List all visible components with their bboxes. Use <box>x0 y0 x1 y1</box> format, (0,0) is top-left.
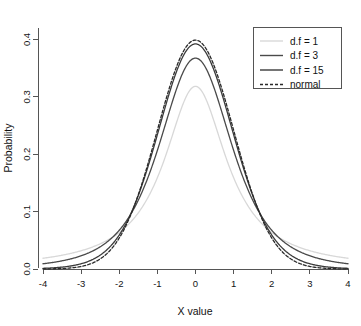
x-tick-label: 3 <box>307 278 312 289</box>
x-tick-label: -3 <box>77 278 85 289</box>
y-axis-ticks: 0.00.10.20.30.4 <box>21 33 38 276</box>
y-axis-title: Probability <box>2 123 14 173</box>
y-tick-label: 0.1 <box>21 205 32 218</box>
x-tick-label: 1 <box>231 278 236 289</box>
legend: d.f = 1d.f = 3d.f = 15normal <box>254 28 342 91</box>
x-tick-label: -1 <box>153 278 161 289</box>
x-tick-label: -2 <box>115 278 123 289</box>
y-tick-label: 0.4 <box>21 33 32 46</box>
curve-series-0 <box>43 86 348 258</box>
t-distribution-plot: -4-3-2-101234 0.00.10.20.30.4 X value Pr… <box>0 0 361 326</box>
chart-container: -4-3-2-101234 0.00.10.20.30.4 X value Pr… <box>0 0 361 326</box>
legend-label-0: d.f = 1 <box>290 36 319 47</box>
y-tick-label: 0.3 <box>21 90 32 103</box>
x-tick-label: 0 <box>193 278 198 289</box>
x-tick-label: -4 <box>39 278 47 289</box>
y-tick-label: 0.0 <box>21 262 32 275</box>
legend-label-2: d.f = 15 <box>290 65 324 76</box>
y-tick-label: 0.2 <box>21 148 32 161</box>
x-axis-title: X value <box>177 305 212 317</box>
x-tick-label: 4 <box>345 278 350 289</box>
x-tick-label: 2 <box>269 278 274 289</box>
legend-label-1: d.f = 3 <box>290 50 319 61</box>
x-axis-ticks: -4-3-2-101234 <box>39 269 351 289</box>
legend-label-3: normal <box>290 79 321 90</box>
